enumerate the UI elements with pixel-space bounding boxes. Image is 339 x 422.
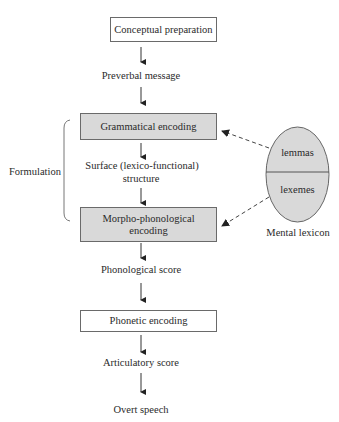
morpho-phonological-label-line1: Morpho-phonological [102, 213, 194, 225]
speech-production-diagram: Conceptual preparation Grammatical encod… [0, 0, 339, 422]
dashed-arrow-lemmas-icon [222, 131, 269, 148]
surface-structure-label-line1: Surface (lexico-functional) [76, 160, 208, 172]
phonetic-encoding-box: Phonetic encoding [80, 310, 217, 332]
surface-structure-label-line2: structure [91, 173, 191, 185]
formulation-label: Formulation [6, 166, 64, 178]
preverbal-message-label: Preverbal message [91, 70, 191, 82]
lexemes-label: lexemes [266, 184, 329, 195]
dashed-arrow-lexemes-icon [222, 197, 269, 226]
phonetic-encoding-label: Phonetic encoding [110, 315, 188, 327]
lemmas-label: lemmas [266, 147, 329, 158]
mental-lexicon-ellipse [266, 127, 329, 222]
grammatical-encoding-label: Grammatical encoding [101, 121, 197, 133]
morpho-phonological-label-line2: encoding [129, 225, 168, 237]
articulatory-score-label: Articulatory score [86, 357, 196, 369]
grammatical-encoding-box: Grammatical encoding [80, 113, 217, 140]
formulation-brace [64, 120, 70, 221]
mental-lexicon-caption: Mental lexicon [257, 227, 339, 239]
phonological-score-label: Phonological score [86, 264, 196, 276]
morpho-phonological-encoding-box: Morpho-phonological encoding [80, 207, 217, 242]
conceptual-preparation-label: Conceptual preparation [114, 24, 212, 36]
overt-speech-label: Overt speech [101, 404, 181, 416]
conceptual-preparation-box: Conceptual preparation [110, 17, 217, 42]
